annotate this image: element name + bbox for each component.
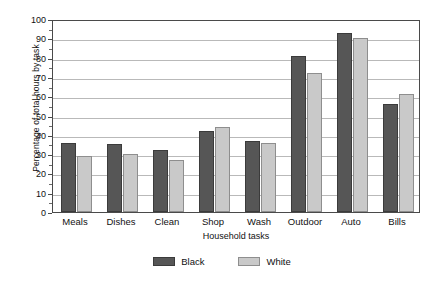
y-axis-tick-label: 100 [31,15,46,25]
bar-chart-figure: Percentage of total hours by task 010203… [0,0,444,282]
bar [77,156,92,212]
y-axis-tick-label: 70 [36,73,46,83]
y-axis-tick-label: 20 [36,169,46,179]
legend-swatch [153,257,175,266]
legend-swatch [238,257,260,266]
bar [107,144,122,212]
bar [337,33,352,212]
x-axis-tick-label: Auto [341,216,361,227]
bar [307,73,322,212]
legend-item[interactable]: White [238,256,290,267]
y-axis-tick-label: 90 [36,34,46,44]
y-axis-tick-label: 10 [36,189,46,199]
bar [245,141,260,212]
bar [153,150,168,212]
chart-legend: BlackWhite [0,256,444,267]
y-axis-tick-label: 30 [36,150,46,160]
legend-label: White [266,256,290,267]
x-axis-tick-label: Dishes [106,216,135,227]
x-axis-tick-label: Outdoor [288,216,322,227]
x-axis-ticks: MealsDishesCleanShopWashOutdoorAutoBills [52,214,420,230]
y-axis-tick-label: 60 [36,92,46,102]
x-axis-tick-label: Clean [155,216,180,227]
y-axis-tick-label: 40 [36,131,46,141]
x-axis-tick-label: Meals [62,216,87,227]
bar [291,56,306,212]
bar [169,160,184,212]
legend-item[interactable]: Black [153,256,204,267]
bar [199,131,214,212]
x-axis-tick-label: Wash [247,216,271,227]
y-axis-tick-label: 0 [41,208,46,218]
bar-series-container [53,21,419,212]
bar [215,127,230,212]
bar [123,154,138,212]
bar [353,38,368,212]
x-axis-title: Household tasks [52,231,420,241]
bar [383,104,398,212]
legend-label: Black [181,256,204,267]
plot-area [52,20,420,213]
y-axis-ticks: 0102030405060708090100 [0,20,52,213]
y-axis-tick-label: 50 [36,112,46,122]
x-axis-tick-label: Bills [388,216,405,227]
y-axis-tick-label: 80 [36,54,46,64]
bar [399,94,414,212]
bar [261,143,276,212]
bar [61,143,76,212]
x-axis-tick-label: Shop [202,216,224,227]
